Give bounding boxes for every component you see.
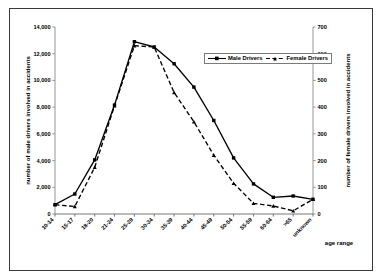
x-axis-tick-label: 21-24 (100, 216, 115, 231)
data-point-marker (172, 91, 176, 95)
right-axis-tick-label: 300 (318, 131, 327, 137)
x-axis-group: 10-1415-1718-2021-2425-2930-3435-3940-44… (40, 214, 313, 238)
left-axis-tick-label: 10,000 (33, 77, 50, 83)
chart-canvas: 02,0004,0006,0008,00010,00012,00014,000 … (0, 0, 383, 280)
x-axis-tick-label: 60-64 (259, 216, 274, 231)
data-point-marker (252, 182, 255, 185)
x-axis-tick-label: 35-39 (159, 216, 173, 230)
left-axis-tick-label: 6,000 (37, 131, 51, 137)
data-point-marker (93, 158, 96, 161)
data-point-marker (232, 156, 235, 159)
right-axis-tick-label: 700 (318, 24, 327, 30)
x-axis-tick-label: >65 (282, 216, 293, 227)
right-axis-tick-label: 400 (318, 104, 327, 110)
x-axis-title: age range (325, 240, 354, 246)
right-axis-title: number of female drivers involved in acc… (345, 53, 351, 188)
x-axis-tick-label: 40-44 (179, 216, 194, 231)
x-axis-tick-label: 45-49 (199, 216, 213, 230)
series-line-female (55, 46, 313, 211)
chart-screenshot: 02,0004,0006,0008,00010,00012,00014,000 … (0, 0, 383, 280)
legend-item-male: Male Drivers (208, 55, 262, 62)
data-point-marker (292, 194, 295, 197)
data-point-marker (93, 165, 97, 169)
x-axis-tick-label: 55-59 (239, 216, 253, 230)
right-axis-tick-label: 200 (318, 158, 327, 164)
left-axis-title: number of male drivers involved in accid… (25, 55, 31, 184)
data-point-marker (272, 196, 275, 199)
left-axis-tick-label: 12,000 (33, 51, 50, 57)
right-axis-tick-label: 0 (318, 211, 321, 217)
x-axis-tick-label: 10-14 (40, 216, 55, 231)
legend-label-female: Female Drivers (286, 56, 328, 62)
data-point-marker (133, 40, 136, 43)
left-axis-tick-label: 4,000 (37, 158, 51, 164)
left-axis-tick-label: 14,000 (33, 24, 50, 30)
legend-swatch-dashed-icon (266, 55, 284, 62)
data-point-marker (172, 62, 175, 65)
data-point-marker (192, 85, 195, 88)
data-point-marker (232, 181, 236, 185)
chart-legend: Male Drivers Female Drivers (204, 53, 332, 64)
left-axis-group: 02,0004,0006,0008,00010,00012,00014,000 (33, 24, 55, 217)
x-axis-tick-label: 15-17 (60, 216, 74, 230)
data-point-marker (212, 153, 216, 157)
right-axis-tick-label: 500 (318, 77, 327, 83)
left-axis-tick-label: 8,000 (37, 104, 51, 110)
left-axis-tick-label: 2,000 (37, 184, 51, 190)
x-axis-tick-label: 30-34 (140, 216, 155, 231)
series-line-male (55, 42, 313, 205)
legend-swatch-solid-icon (208, 55, 226, 62)
data-point-marker (212, 119, 215, 122)
series-group (53, 40, 315, 213)
legend-item-female: Female Drivers (266, 55, 328, 62)
x-axis-tick-label: 50-54 (219, 216, 234, 231)
x-axis-tick-label: 25-29 (120, 216, 134, 230)
legend-label-male: Male Drivers (228, 56, 262, 62)
right-axis-tick-label: 100 (318, 184, 327, 190)
x-axis-tick-label: 18-20 (80, 216, 94, 230)
data-point-marker (73, 192, 76, 195)
x-axis-tick-label: unknown (291, 216, 313, 238)
